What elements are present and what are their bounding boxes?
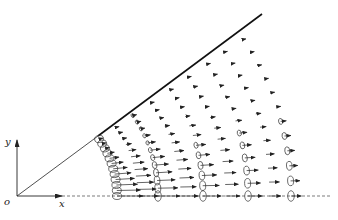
velocity-arrow [137,121,141,122]
velocity-arrow [276,106,281,107]
velocity-arrow [226,97,230,98]
velocity-arrow [263,140,270,141]
velocity-arrow [99,138,103,139]
velocity-arrow [135,169,148,170]
velocity-arrow [251,100,255,101]
velocity-arrow [116,127,119,128]
velocity-arrow [207,63,211,64]
velocity-arrow [175,98,179,99]
velocity-arrow [115,173,132,174]
velocity-arrow [220,85,224,86]
velocity-arrow [145,135,151,136]
velocity-arrow [250,52,254,53]
velocity-arrow [137,182,154,183]
velocity-arrow [202,175,217,176]
velocity-arrow [260,127,266,128]
velocity-arrow [120,132,123,133]
velocity-arrow [223,161,234,162]
axes [17,14,332,196]
velocity-arrow [200,96,203,97]
velocity-arrow [231,108,236,109]
velocity-arrow [210,117,215,118]
velocity-arrow [218,138,226,139]
velocity-arrow [242,39,246,40]
velocity-arrow [281,121,287,122]
velocity-arrow [242,145,251,146]
velocity-arrow [185,116,190,117]
velocity-arrow [181,107,185,108]
velocity-arrow [193,135,201,136]
velocity-arrow [284,136,291,137]
velocity-arrow [113,167,127,168]
x-axis-label: x [59,198,65,209]
velocity-arrow [126,144,132,145]
velocity-arrow [220,150,229,151]
velocity-arrow [129,150,137,151]
velocity-arrow [165,125,170,126]
wedge-boundary-line [98,14,262,136]
velocity-arrow [133,115,137,116]
velocity-arrow [265,78,269,79]
velocity-arrow [116,184,137,185]
velocity-arrow [245,157,255,158]
velocity-arrow [199,154,211,155]
velocity-arrow [169,134,175,135]
velocity-arrow [266,154,274,155]
strain-ellipse [130,113,135,118]
velocity-arrow [133,162,144,163]
velocity-arrow [123,138,127,139]
velocity-arrow [206,106,210,107]
velocity-arrow [195,86,198,87]
velocity-arrow [245,88,248,89]
velocity-arrow [180,177,195,178]
velocity-arrow [172,142,180,143]
velocity-arrow [102,143,106,144]
velocity-arrow [156,110,159,111]
vector-field-diagram [0,0,338,220]
velocity-arrow [258,65,262,66]
velocity-arrow [188,76,191,77]
velocity-arrow [224,51,227,52]
y-axis-label: y [5,136,11,147]
velocity-arrow [136,175,151,176]
velocity-arrow [247,170,259,171]
velocity-arrow [178,168,191,169]
velocity-arrow [174,151,184,152]
velocity-arrow [201,165,214,166]
velocity-arrow [239,132,247,133]
vector-field [94,39,301,201]
velocity-arrow [214,128,221,129]
velocity-arrow [161,118,164,119]
velocity-arrow [239,75,242,76]
velocity-arrow [271,92,275,93]
velocity-arrow [112,162,124,163]
velocity-arrow [214,74,218,75]
velocity-arrow [232,63,235,64]
velocity-arrow [105,148,110,149]
velocity-arrow [131,156,140,157]
velocity-arrow [256,113,261,114]
velocity-arrow [236,120,242,121]
velocity-arrow [141,128,145,129]
origin-label: o [4,196,10,207]
velocity-arrow [151,102,154,103]
velocity-arrow [170,89,174,90]
velocity-arrow [117,190,141,191]
velocity-arrow [116,178,135,179]
wedge-thin-line [17,136,98,196]
velocity-arrow [107,152,114,153]
velocity-arrow [196,144,206,145]
velocity-arrow [177,159,188,160]
velocity-arrow [189,125,196,126]
